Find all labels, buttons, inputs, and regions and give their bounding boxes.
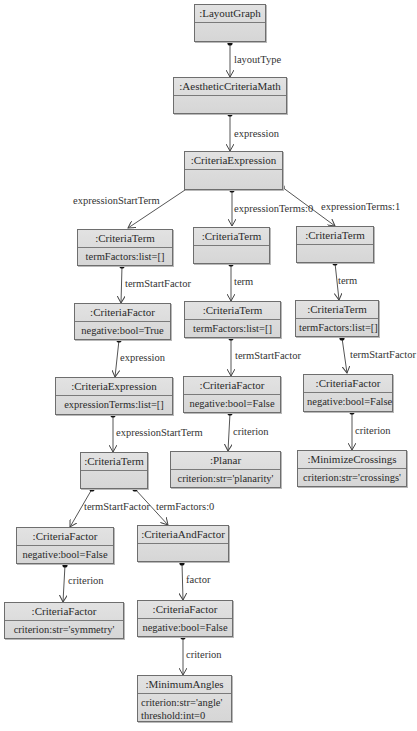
edge-criterion-sym — [63, 565, 65, 602]
node-title: :CriteriaFactor — [17, 528, 113, 546]
node-title: :LayoutGraph — [195, 5, 265, 23]
node-criteria-term-b2: :CriteriaTerm termFactors:list=[] — [184, 301, 281, 338]
node-attr: negative:bool=True — [75, 322, 170, 339]
node-title: :CriteriaTerm — [297, 227, 373, 245]
node-aesthetic-criteria-math: :AestheticCriteriaMath — [173, 77, 287, 114]
node-criteria-expression-inner: :CriteriaExpression expressionTerms:list… — [55, 377, 173, 415]
node-attrs — [297, 245, 373, 262]
edge-label: criterion — [233, 426, 269, 438]
node-criteria-factor-a: :CriteriaFactor negative:bool=True — [74, 303, 171, 340]
node-criteria-term-c2: :CriteriaTerm termFactors:list=[] — [295, 300, 379, 337]
edge-label: expressionTerms:1 — [321, 201, 400, 213]
node-attr: criterion:str='symmetry' — [5, 621, 123, 638]
edge-label: expression — [234, 128, 279, 140]
node-attrs — [185, 170, 282, 187]
edge-criterion-planar — [228, 413, 230, 451]
node-attr: negative:bool=False — [138, 619, 232, 636]
node-criteria-term-b: :CriteriaTerm — [193, 227, 270, 264]
edge-term-start-factor-a — [121, 266, 122, 303]
node-title: :CriteriaTerm — [296, 301, 378, 319]
node-attr: termFactors:list=[] — [296, 319, 378, 336]
node-attr: criterion:str='planarity' — [171, 470, 280, 487]
node-attr: negative:bool=False — [184, 395, 280, 412]
node-title: :CriteriaTerm — [194, 228, 269, 246]
node-attr: negative:bool=False — [304, 393, 392, 410]
node-criteria-factor-b: :CriteriaFactor negative:bool=False — [183, 376, 281, 413]
node-attrs — [81, 471, 147, 488]
node-attr: criterion:str='angle' — [141, 696, 228, 709]
node-criteria-factor-e: :CriteriaFactor negative:bool=False — [137, 600, 233, 637]
node-title: :CriteriaFactor — [184, 377, 280, 395]
edge-label: layoutType — [234, 54, 281, 66]
edge-term-start-factor-c — [342, 338, 347, 373]
node-planar: :Planar criterion:str='planarity' — [170, 451, 281, 488]
node-title: :CriteriaFactor — [138, 601, 232, 619]
edge-factor — [182, 563, 183, 600]
node-minimum-angles: :MinimumAngles criterion:str='angle' thr… — [137, 675, 232, 722]
edge-label: criterion — [186, 649, 222, 661]
node-title: :CriteriaFactor — [5, 603, 123, 621]
node-attr: termFactors:list=[] — [185, 320, 280, 337]
node-attrs — [195, 23, 265, 40]
node-title: :CriteriaFactor — [75, 304, 170, 322]
node-criteria-expression: :CriteriaExpression — [184, 151, 283, 190]
edge-label: term — [234, 276, 253, 288]
edge-label: term — [338, 275, 357, 287]
node-criteria-term-a: :CriteriaTerm termFactors:list=[] — [77, 229, 173, 266]
node-title: :CriteriaExpression — [185, 152, 282, 170]
node-attrs: criterion:str='angle' threshold:int=0 — [138, 694, 231, 724]
edge-label: termStartFactor — [125, 278, 191, 290]
node-attr: negative:bool=False — [17, 546, 113, 563]
node-criteria-and-factor: :CriteriaAndFactor — [137, 525, 229, 562]
node-title: :MinimizeCrossings — [298, 451, 406, 469]
edge-label: criterion — [68, 575, 104, 587]
edge-label: expressionStartTerm — [116, 427, 203, 439]
node-criteria-factor-symmetry: :CriteriaFactor criterion:str='symmetry' — [4, 602, 124, 639]
edge-label: expressionStartTerm — [73, 195, 160, 207]
node-attr: expressionTerms:list=[] — [56, 396, 172, 413]
edge-label: expression — [120, 352, 165, 364]
node-attr: threshold:int=0 — [141, 709, 228, 722]
node-title: :MinimumAngles — [138, 676, 231, 694]
node-title: :CriteriaAndFactor — [138, 526, 228, 544]
node-title: :CriteriaTerm — [185, 302, 280, 320]
edge-expression-2 — [115, 340, 119, 377]
edge-label: criterion — [355, 425, 391, 437]
node-title: :CriteriaTerm — [81, 453, 147, 471]
node-layout-graph: :LayoutGraph — [194, 4, 266, 42]
edge-label: termStartFactor — [235, 350, 301, 362]
node-title: :CriteriaFactor — [304, 375, 392, 393]
node-attrs — [138, 544, 228, 561]
node-title: :Planar — [171, 452, 280, 470]
node-criteria-factor-d: :CriteriaFactor negative:bool=False — [16, 527, 114, 564]
node-criteria-term-inner: :CriteriaTerm — [80, 452, 148, 489]
edge-label: termStartFactor — [84, 501, 150, 513]
node-title: :CriteriaTerm — [78, 230, 172, 248]
node-title: :AestheticCriteriaMath — [174, 78, 286, 96]
node-minimize-crossings: :MinimizeCrossings criterion:str='crossi… — [297, 450, 407, 487]
node-criteria-term-c: :CriteriaTerm — [296, 226, 374, 263]
node-attrs — [174, 96, 286, 113]
node-attr: criterion:str='crossings' — [298, 469, 406, 486]
edge-label: termFactors:0 — [156, 501, 214, 513]
edge-label: termStartFactor — [350, 349, 416, 361]
edge-label: factor — [186, 574, 210, 586]
node-attr: termFactors:list=[] — [78, 248, 172, 265]
node-attrs — [194, 246, 269, 263]
node-criteria-factor-c: :CriteriaFactor negative:bool=False — [303, 374, 393, 412]
node-title: :CriteriaExpression — [56, 378, 172, 396]
edge-label: expressionTerms:0 — [234, 203, 313, 215]
